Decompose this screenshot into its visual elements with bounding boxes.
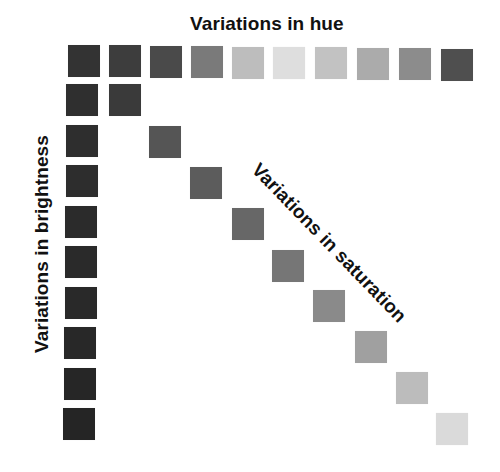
hue-swatch [109, 45, 141, 77]
saturation-swatch [272, 250, 304, 282]
brightness-swatch [64, 368, 96, 400]
hue-swatch [399, 48, 431, 80]
hue-swatch [357, 48, 389, 80]
brightness-swatch [65, 287, 97, 319]
saturation-swatch [396, 372, 428, 404]
saturation-swatch [109, 84, 141, 116]
hue-swatch [232, 47, 264, 79]
brightness-swatch [64, 327, 96, 359]
brightness-swatch [65, 206, 97, 238]
color-variation-diagram: Variations in hue Variations in brightne… [0, 0, 500, 472]
hue-variation-label: Variations in hue [190, 13, 344, 35]
hue-swatch [441, 49, 473, 81]
brightness-swatch [65, 246, 97, 278]
hue-swatch [191, 46, 223, 78]
saturation-swatch [436, 413, 468, 445]
brightness-variation-label: Variations in brightness [31, 135, 53, 353]
hue-swatch [273, 47, 305, 79]
hue-swatch [150, 46, 182, 78]
saturation-swatch [149, 126, 181, 158]
hue-swatch [68, 45, 100, 77]
saturation-swatch [232, 208, 264, 240]
hue-swatch [315, 47, 347, 79]
saturation-swatch [190, 167, 222, 199]
saturation-swatch [313, 290, 345, 322]
brightness-swatch [66, 165, 98, 197]
saturation-swatch [355, 331, 387, 363]
brightness-swatch [63, 408, 95, 440]
brightness-swatch [66, 84, 98, 116]
brightness-swatch [66, 125, 98, 157]
